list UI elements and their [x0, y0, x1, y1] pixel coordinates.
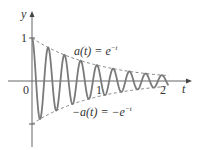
y-axis-arrow-icon [30, 11, 35, 17]
upper-envelope-label: a(t) = e−t [74, 42, 117, 57]
origin-label: 0 [23, 84, 29, 96]
x-axis-label: t [182, 83, 185, 95]
plot-svg [0, 0, 198, 150]
x-tick-label-2: 2 [160, 84, 166, 96]
y-tick-label-1: 1 [21, 32, 27, 44]
chart-area: y 1 0 1 2 t a(t) = e−t −a(t) = −e−t [0, 0, 198, 150]
lower-envelope-label: −a(t) = −e−t [72, 103, 132, 118]
x-axis-arrow-icon [186, 79, 192, 84]
y-axis-label: y [21, 8, 26, 20]
x-tick-label-1: 1 [96, 84, 102, 96]
